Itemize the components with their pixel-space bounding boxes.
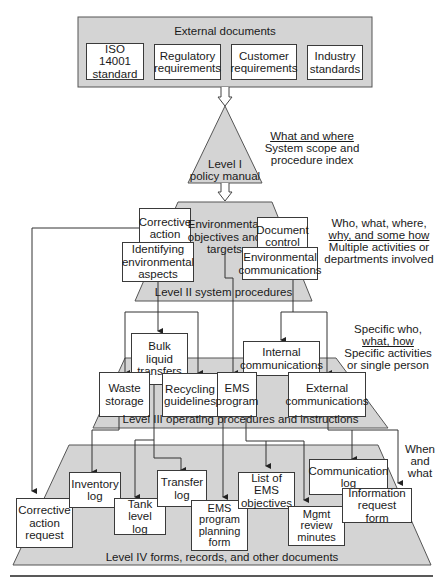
customer-requirements-box: Customer requirements: [231, 44, 297, 80]
level4-note: When and what: [400, 443, 440, 479]
mgmt-review-minutes-box: Mgmt review minutes: [288, 506, 345, 546]
level3-note-line1: Specific who,: [338, 323, 438, 335]
hollow-arrow-icon: [218, 183, 232, 201]
identifying-aspects-box: Identifying environmental aspects: [122, 242, 194, 282]
level2-label: Level II system procedures: [135, 286, 312, 299]
iso-14001-box: ISO 14001 standard: [86, 43, 144, 80]
level2-note-line1: Who, what, where,: [320, 217, 438, 229]
level3-label: Level III operating procedures and instr…: [93, 413, 388, 426]
hollow-arrow-icon: [218, 87, 232, 106]
list-ems-objectives-box: List of EMS objectives: [238, 472, 295, 509]
level1-note-line1: System scope and: [262, 142, 362, 154]
external-communications-box: External communications: [288, 372, 366, 417]
level4-note-line2: and: [400, 455, 440, 467]
level2-note: Who, what, where, why, and some how Mult…: [320, 217, 438, 265]
level4-note-line3: what: [400, 467, 440, 479]
level4-note-line1: When: [400, 443, 440, 455]
level4-label: Level IV forms, records, and other docum…: [13, 551, 431, 564]
corrective-action-request-box: Corrective action request: [16, 498, 73, 548]
level2-note-line3: departments involved: [320, 253, 438, 265]
level1-label-1: Level I: [188, 158, 262, 171]
level3-note-line2: Specific activities: [338, 347, 438, 359]
external-documents-title: External documents: [78, 25, 372, 38]
industry-standards-box: Industry standards: [307, 45, 363, 80]
level1-note-line2: procedure index: [262, 154, 362, 166]
internal-communications-box: Internal communications: [243, 341, 320, 376]
recycling-guidelines-box: Recycling guidelines: [162, 373, 218, 417]
regulatory-requirements-box: Regulatory requirements: [154, 44, 221, 80]
level1-note: What and where System scope and procedur…: [262, 130, 362, 166]
waste-storage-box: Waste storage: [99, 372, 150, 417]
level3-note-line3: or single person: [338, 359, 438, 371]
level3-note-heading: what, how: [338, 335, 438, 347]
ems-program-box: EMS program: [217, 372, 257, 417]
level2-note-line2: Multiple activities or: [320, 241, 438, 253]
level1-label-2: policy manual: [188, 170, 262, 183]
level3-note: Specific who, what, how Specific activit…: [338, 323, 438, 371]
level1-note-heading: What and where: [262, 130, 362, 142]
level2-note-heading: why, and some how: [320, 229, 438, 241]
info-request-form-box: Information request form: [342, 488, 412, 523]
env-communications-box: Environmental communications: [242, 247, 318, 280]
